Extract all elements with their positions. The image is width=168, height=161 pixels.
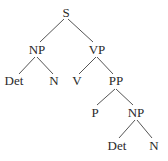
tree-node-det2: Det [108,138,127,153]
tree-edge-s-vp [68,19,93,42]
tree-node-n2: N [149,138,159,153]
tree-edge-s-np1 [40,19,64,42]
tree-node-pp: PP [109,73,123,88]
tree-node-vp: VP [89,42,106,57]
tree-edge-vp-pp [97,57,113,74]
tree-svg: SNPVPDetNVPPPNPDetN [0,0,168,161]
tree-edge-pp-np2 [116,89,133,105]
tree-node-s: S [62,5,69,20]
tree-edge-np1-n1 [37,57,53,74]
syntax-tree-diagram: SNPVPDetNVPPPNPDetN [0,0,168,161]
tree-edges [19,19,152,138]
tree-edge-vp-v [79,57,96,74]
tree-edge-pp-p [97,89,115,105]
tree-node-det1: Det [5,73,24,88]
tree-edge-np2-det2 [119,120,135,138]
tree-edge-np2-n2 [137,120,152,138]
tree-nodes: SNPVPDetNVPPPNPDetN [5,5,160,153]
tree-node-np1: NP [29,42,46,57]
tree-edge-np1-det1 [19,57,35,74]
tree-node-p: P [91,105,98,120]
tree-node-v: V [72,73,82,88]
tree-node-np2: NP [128,105,145,120]
tree-node-n1: N [49,73,59,88]
